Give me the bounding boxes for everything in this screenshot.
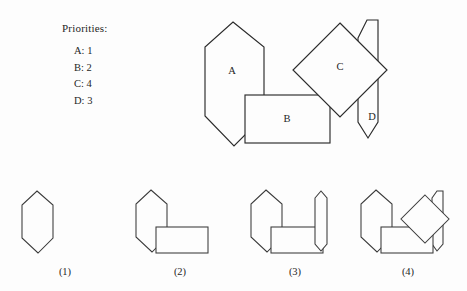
priority-row-c: C: 4 xyxy=(74,76,172,93)
option-2-label: (2) xyxy=(121,266,239,277)
option-1-figure xyxy=(6,182,124,266)
main-composite-figure: A B C D xyxy=(190,10,405,160)
priority-row-a: A: 1 xyxy=(74,43,172,60)
option-3-shape-d xyxy=(315,191,327,251)
priorities-title: Priorities: xyxy=(62,22,172,34)
priority-row-b: B: 2 xyxy=(74,60,172,77)
option-1-shape-a xyxy=(22,191,53,253)
main-shape-c-label: C xyxy=(336,61,343,72)
priority-row-d: D: 3 xyxy=(74,93,172,110)
option-3-label: (3) xyxy=(236,266,354,277)
answer-options: (1) (2) (3) xyxy=(0,182,467,291)
option-2-shape-b xyxy=(156,227,208,253)
option-3-figure xyxy=(236,182,354,266)
main-shape-a-label: A xyxy=(228,65,236,76)
priorities-legend: Priorities: A: 1 B: 2 C: 4 D: 3 xyxy=(62,22,172,109)
option-2-figure xyxy=(121,182,239,266)
option-4[interactable]: (4) xyxy=(349,182,467,291)
puzzle-root: Priorities: A: 1 B: 2 C: 4 D: 3 A B C D … xyxy=(0,0,467,291)
option-4-label: (4) xyxy=(349,266,467,277)
option-4-figure xyxy=(349,182,467,266)
option-3[interactable]: (3) xyxy=(236,182,354,291)
option-1-label: (1) xyxy=(6,266,124,277)
priorities-list: A: 1 B: 2 C: 4 D: 3 xyxy=(62,43,172,109)
option-1[interactable]: (1) xyxy=(6,182,124,291)
main-shape-b-label: B xyxy=(283,113,290,124)
option-2[interactable]: (2) xyxy=(121,182,239,291)
main-shape-d-label: D xyxy=(368,111,376,122)
